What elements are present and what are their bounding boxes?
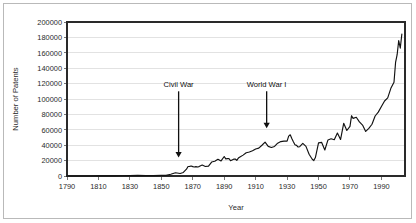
y-tick-label: 140000 bbox=[37, 64, 62, 73]
y-tick-label: 80000 bbox=[41, 110, 62, 119]
annotation-label: World War I bbox=[247, 80, 287, 89]
x-tick-labels: 1790181018301850187018901910193019501970… bbox=[59, 182, 390, 191]
annotation-label: Civil War bbox=[164, 80, 195, 89]
y-tick-label: 180000 bbox=[37, 33, 62, 42]
y-tick-label: 60000 bbox=[41, 126, 62, 135]
x-tick-label: 1890 bbox=[216, 182, 232, 191]
patents-line-chart: 0200004000060000800001000001200001400001… bbox=[4, 4, 413, 220]
y-tick-label: 120000 bbox=[37, 79, 62, 88]
y-tick-labels: 0200004000060000800001000001200001400001… bbox=[37, 18, 62, 181]
annotation-arrow-head bbox=[176, 152, 182, 158]
x-tick-label: 1990 bbox=[373, 182, 389, 191]
patents-data-line bbox=[67, 34, 402, 176]
annotation-arrow-head bbox=[264, 123, 270, 129]
y-tick-label: 100000 bbox=[37, 95, 62, 104]
x-tick-label: 1830 bbox=[122, 182, 138, 191]
x-tick-label: 1930 bbox=[279, 182, 295, 191]
x-tick-label: 1910 bbox=[247, 182, 263, 191]
y-tick-label: 0 bbox=[58, 172, 62, 181]
x-tick-label: 1870 bbox=[185, 182, 201, 191]
y-tick-label: 40000 bbox=[41, 141, 62, 150]
x-tick-label: 1970 bbox=[342, 182, 358, 191]
chart-frame: 0200004000060000800001000001200001400001… bbox=[3, 3, 412, 219]
gridlines bbox=[67, 22, 405, 161]
y-tick-label: 20000 bbox=[41, 156, 62, 165]
x-tick-label: 1950 bbox=[310, 182, 326, 191]
x-tick-label: 1850 bbox=[153, 182, 169, 191]
x-tick-label: 1810 bbox=[90, 182, 106, 191]
x-tick-label: 1790 bbox=[59, 182, 75, 191]
y-tick-label: 200000 bbox=[37, 18, 62, 27]
x-axis-title: Year bbox=[228, 203, 244, 212]
y-axis-title: Number of Patents bbox=[11, 67, 20, 131]
y-tick-label: 160000 bbox=[37, 49, 62, 58]
